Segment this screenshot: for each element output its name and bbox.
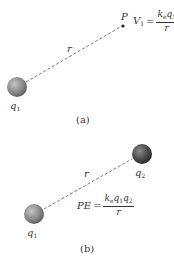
distance-r-label: r [84, 169, 89, 179]
charge-q2-label: q2 [135, 168, 145, 179]
charge-q1-label: q1 [27, 228, 37, 239]
charge-q1-sphere [24, 204, 44, 224]
charge-q1-sphere [7, 77, 27, 97]
caption-a: (a) [76, 115, 90, 125]
potential-energy-equation: PE = keq1q2 r [77, 193, 134, 217]
point-p-label: P [121, 12, 128, 22]
distance-line [26, 26, 122, 82]
charge-q1-label: q1 [10, 101, 20, 112]
panel-a-single-charge-potential: q1 P r V1 = keq1 r (a) [0, 0, 174, 130]
potential-equation: V1 = keq1 r [133, 9, 174, 33]
point-p-dot [121, 24, 124, 27]
distance-r-label: r [67, 44, 72, 54]
charge-q2-sphere [132, 144, 152, 164]
caption-b: (b) [80, 244, 94, 254]
panel-b-two-charge-potential-energy: q1 q2 r PE = keq1q2 r (b) [0, 130, 174, 263]
